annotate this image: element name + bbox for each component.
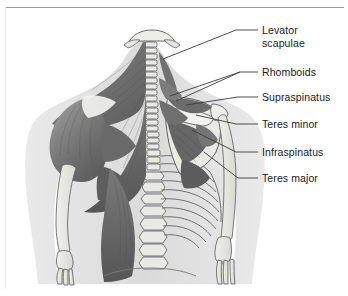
label-supraspinatus: Supraspinatus: [262, 91, 330, 104]
label-teres-major: Teres major: [262, 172, 318, 185]
label-infraspinatus: Infraspinatus: [262, 146, 323, 159]
anatomy-figure-panel: Levator scapulaeRhomboidsSupraspinatusTe…: [0, 0, 348, 296]
label-levator-scapulae: Levator scapulae: [262, 24, 305, 49]
label-rhomboids: Rhomboids: [262, 66, 316, 79]
label-teres-minor: Teres minor: [262, 118, 318, 131]
